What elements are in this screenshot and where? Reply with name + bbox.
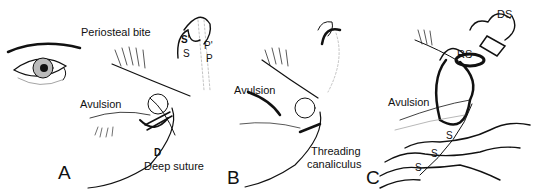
label-s-prime: S': [181, 34, 190, 46]
label-threading: Threading: [311, 145, 361, 157]
label-avulsion-c: Avulsion: [388, 96, 429, 108]
label-s3: S: [415, 162, 422, 174]
label-deep-suture: Deep suture: [144, 160, 204, 172]
label-avulsion-a: Avulsion: [80, 98, 121, 110]
label-rs: RS: [457, 48, 472, 60]
label-avulsion-b: Avulsion: [234, 84, 275, 96]
label-periosteal-bite: Periosteal bite: [81, 26, 151, 38]
eyelid-repair-figure: Periosteal bite S' S P' P Avulsion D Dee…: [0, 0, 536, 191]
label-p-prime: P': [204, 40, 213, 52]
label-d: D: [154, 147, 161, 159]
panel-letter-b: B: [227, 168, 240, 188]
label-p: P: [206, 53, 213, 65]
label-s1: S: [446, 130, 453, 142]
label-s2: S: [431, 148, 438, 160]
eye-icon: [8, 44, 80, 85]
panel-letter-a: A: [58, 163, 71, 183]
label-ds: DS: [497, 8, 512, 20]
label-canaliculus: canaliculus: [307, 158, 361, 170]
panel-letter-c: C: [366, 168, 380, 188]
label-s: S: [183, 48, 190, 60]
